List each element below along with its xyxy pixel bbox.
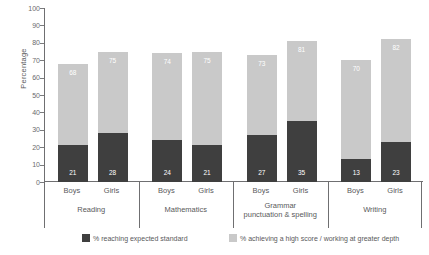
x-axis-sub-label-girls: Girls xyxy=(372,186,418,195)
category-axis-area: BoysGirlsBoysGirlsBoysGirlsBoysGirlsRead… xyxy=(44,182,423,228)
y-axis-tick-label: 20 xyxy=(16,144,40,151)
legend-color-swatch xyxy=(229,234,237,242)
bar-segment-high-score: 82 xyxy=(381,39,411,142)
legend-item[interactable]: % achieving a high score / working at gr… xyxy=(229,234,399,242)
bar-total-label: 74 xyxy=(152,59,182,66)
y-axis-tick-label: 0 xyxy=(16,179,40,186)
bar-segment-expected-standard: 23 xyxy=(381,142,411,182)
bar-segment-high-score: 74 xyxy=(152,53,182,140)
x-axis-sub-label-girls: Girls xyxy=(278,186,324,195)
y-axis-tick-mark xyxy=(40,60,44,61)
x-axis-sub-label-girls: Girls xyxy=(183,186,229,195)
group-divider xyxy=(328,182,329,228)
y-axis-tick-mark xyxy=(40,8,44,9)
bar: 8223 xyxy=(381,39,411,182)
bar-total-label: 68 xyxy=(58,70,88,77)
bar-value-label: 21 xyxy=(58,170,88,177)
y-axis-tick-label: 90 xyxy=(16,22,40,29)
bar-segment-expected-standard: 21 xyxy=(58,145,88,182)
group-divider xyxy=(44,182,45,228)
legend-label: % reaching expected standard xyxy=(93,235,188,242)
y-axis-tick-label: 40 xyxy=(16,109,40,116)
bar-total-label: 75 xyxy=(192,58,222,65)
y-axis-tick-mark xyxy=(40,25,44,26)
y-axis-tick-label: 70 xyxy=(16,57,40,64)
y-axis-tick-mark xyxy=(40,130,44,131)
bar-segment-high-score: 75 xyxy=(98,52,128,134)
legend-item[interactable]: % reaching expected standard xyxy=(82,234,188,242)
bar-total-label: 81 xyxy=(287,47,317,54)
bar: 7013 xyxy=(341,60,371,182)
bar-segment-high-score: 68 xyxy=(58,64,88,146)
bar: 7528 xyxy=(98,52,128,183)
group-divider xyxy=(233,182,234,228)
x-axis-sub-label-girls: Girls xyxy=(89,186,135,195)
bar-segment-high-score: 73 xyxy=(247,55,277,135)
group-divider xyxy=(139,182,140,228)
bar-segment-expected-standard: 24 xyxy=(152,140,182,182)
y-axis-tick-label: 10 xyxy=(16,161,40,168)
bar-value-label: 21 xyxy=(192,170,222,177)
bar-total-label: 82 xyxy=(381,45,411,52)
bar-segment-high-score: 70 xyxy=(341,60,371,159)
group-divider xyxy=(421,182,422,228)
bar-segment-expected-standard: 21 xyxy=(192,145,222,182)
x-axis-group-label: Reading xyxy=(36,206,146,215)
y-axis-tick-mark xyxy=(40,95,44,96)
bar-total-label: 73 xyxy=(247,61,277,68)
y-axis-tick-label: 50 xyxy=(16,92,40,99)
y-axis-tick-label: 60 xyxy=(16,74,40,81)
y-axis-tick-label: 30 xyxy=(16,126,40,133)
stacked-bar-chart: Percentage 1009080706050403020100 682175… xyxy=(0,0,429,255)
x-axis-group-label: Grammarpunctuation & spelling xyxy=(225,202,335,219)
y-axis-tick-mark xyxy=(40,78,44,79)
y-axis-tick-labels: 1009080706050403020100 xyxy=(14,0,40,190)
y-axis-tick-mark xyxy=(40,182,44,183)
bar-segment-expected-standard: 35 xyxy=(287,121,317,182)
bar: 7327 xyxy=(247,55,277,182)
bar-segment-high-score: 81 xyxy=(287,41,317,121)
y-axis-tick-mark xyxy=(40,112,44,113)
y-axis-tick-mark xyxy=(40,147,44,148)
bar: 6821 xyxy=(58,64,88,182)
chart-legend: % reaching expected standard% achieving … xyxy=(0,234,429,248)
bar-value-label: 27 xyxy=(247,170,277,177)
bar: 7521 xyxy=(192,52,222,183)
bar-total-label: 70 xyxy=(341,66,371,73)
bar-segment-expected-standard: 13 xyxy=(341,159,371,182)
y-axis-tick-label: 80 xyxy=(16,39,40,46)
bar-segment-expected-standard: 27 xyxy=(247,135,277,182)
y-axis-tick-mark xyxy=(40,165,44,166)
y-axis-tick-mark xyxy=(40,43,44,44)
x-axis-group-label: Writing xyxy=(320,206,429,215)
bar: 7424 xyxy=(152,53,182,182)
x-axis-group-label: Mathematics xyxy=(131,206,241,215)
bar-value-label: 23 xyxy=(381,170,411,177)
bar-value-label: 35 xyxy=(287,170,317,177)
bar-segment-expected-standard: 28 xyxy=(98,133,128,182)
bar-segment-high-score: 75 xyxy=(192,52,222,146)
y-axis-tick-label: 100 xyxy=(16,5,40,12)
bar-total-label: 75 xyxy=(98,58,128,65)
bar: 8135 xyxy=(287,41,317,182)
bar-value-label: 28 xyxy=(98,170,128,177)
plot-area: 68217528742475217327813570138223 xyxy=(45,8,423,182)
bar-value-label: 24 xyxy=(152,170,182,177)
bar-value-label: 13 xyxy=(341,170,371,177)
legend-color-swatch xyxy=(82,234,90,242)
legend-label: % achieving a high score / working at gr… xyxy=(240,235,399,242)
